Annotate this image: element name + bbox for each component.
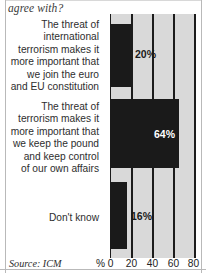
category-line: we join the euro <box>0 69 99 81</box>
bar-value-pound: 64% <box>154 128 175 140</box>
category-line: more important that <box>0 126 99 138</box>
category-line: terrorism makes it <box>0 44 99 56</box>
category-line: of our own affairs <box>0 163 99 175</box>
category-line: Don't know <box>0 212 99 224</box>
right-border-rule <box>201 0 202 273</box>
x-tick-60: 60 <box>166 258 181 269</box>
x-tick-80: 80 <box>186 258 201 269</box>
x-tick-0: 0 <box>105 258 116 269</box>
x-tick-40: 40 <box>145 258 160 269</box>
category-line: The threat of <box>0 19 99 31</box>
percent-symbol: % <box>96 258 105 269</box>
category-line: international <box>0 31 99 43</box>
bar-value-dont-know: 16% <box>131 210 152 222</box>
bar-dont-know <box>110 182 127 249</box>
bar-value-euro: 20% <box>135 48 156 60</box>
chart-figure: agree with? The threat of international … <box>0 0 206 273</box>
category-label-dont-know: Don't know <box>0 212 99 224</box>
source-note: Source: ICM <box>9 258 62 269</box>
plot-area: 20% 64% 16% <box>110 14 196 258</box>
category-line: The threat of <box>0 101 99 113</box>
category-line: more important that <box>0 56 99 68</box>
category-line: terrorism makes it <box>0 113 99 125</box>
x-tick-20: 20 <box>124 258 139 269</box>
category-label-euro: The threat of international terrorism ma… <box>0 19 99 93</box>
bar-euro <box>110 24 132 87</box>
category-line: and keep control <box>0 151 99 163</box>
category-label-pound: The threat of terrorism makes it more im… <box>0 101 99 175</box>
category-line: and EU constitution <box>0 81 99 93</box>
category-line: we keep the pound <box>0 138 99 150</box>
